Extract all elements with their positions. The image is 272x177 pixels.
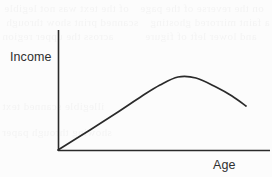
y-axis-label: Income [10,51,52,64]
x-axis-label: Age [213,159,236,172]
figure-container: of the text was not legible on the rever… [0,0,272,177]
income-age-chart [0,0,272,177]
income-curve-line [58,76,246,150]
